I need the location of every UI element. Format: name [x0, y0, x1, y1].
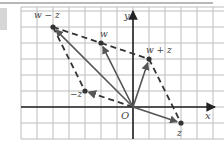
origin-label: O	[121, 110, 129, 121]
vector-arrow-w_plus_z	[133, 63, 148, 107]
vector-arrow-w	[103, 47, 133, 107]
point-label-w_plus_z: w + z	[146, 45, 172, 55]
y-axis-label: y	[123, 10, 130, 21]
point-w_plus_z	[146, 56, 151, 61]
point-z	[178, 120, 183, 125]
point-label-neg_z: −z	[70, 89, 83, 99]
vector-arrow-z	[133, 107, 177, 122]
vector-diagram: x y O w − zww + z−zz	[0, 0, 224, 153]
x-axis-label: x	[205, 110, 211, 121]
point-label-w_minus_z: w − z	[34, 10, 60, 20]
point-label-w: w	[100, 29, 108, 39]
vector-points: w − zww + z−zz	[34, 10, 184, 138]
point-label-z: z	[176, 128, 182, 138]
point-w_minus_z	[50, 24, 55, 29]
point-neg_z	[82, 88, 87, 93]
point-w	[98, 40, 103, 45]
